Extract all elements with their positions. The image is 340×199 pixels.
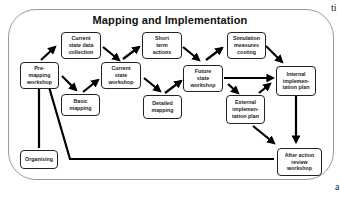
arrow-simulation-to-internal bbox=[266, 46, 282, 62]
arrow-external-to-afteraction bbox=[253, 126, 274, 143]
arrow-detailed-to-futurestate bbox=[165, 81, 181, 93]
arrow-external-to-internal bbox=[259, 84, 270, 93]
node-current-state-data-collection: Current state data collection bbox=[61, 32, 101, 59]
node-future-state-workshop: Future state workshop bbox=[183, 65, 223, 92]
node-current-state-workshop: Current state workshop bbox=[101, 62, 141, 89]
node-pre-mapping-workshop: Pre- mapping workshop bbox=[20, 62, 59, 89]
arrow-futurestate-to-simulation bbox=[206, 48, 222, 60]
node-external-implementation-plan: External implemen- tation plan bbox=[226, 95, 265, 124]
node-detailed-mapping: Detailed mapping bbox=[143, 95, 182, 119]
arrow-shortterm-to-futurestate bbox=[183, 47, 199, 60]
node-simulation-measures-costing: Simulation measures costing bbox=[227, 32, 266, 59]
arrow-premapping-to-basicmapping bbox=[62, 76, 76, 90]
node-basic-mapping: Basic mapping bbox=[61, 94, 100, 116]
arrow-premapping-to-datacollection bbox=[41, 47, 55, 60]
arrow-basicmapping-to-currentstate bbox=[83, 80, 98, 92]
node-after-action-review-workshop: After action review workshop bbox=[277, 148, 322, 176]
node-internal-implementation-plan: Internal implemen- tation plan bbox=[276, 66, 316, 96]
node-organising: Organising bbox=[20, 150, 58, 169]
arrow-currentstate-to-shortterm bbox=[123, 47, 139, 59]
arrow-futurestate-to-external bbox=[228, 84, 238, 93]
arrow-datacollection-to-currentstate bbox=[103, 47, 119, 60]
arrow-currentstate-to-detailed bbox=[144, 78, 160, 91]
node-short-term-actions: Short term actions bbox=[142, 32, 182, 59]
